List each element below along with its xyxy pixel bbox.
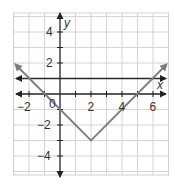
y-tick-label-neg4: −4 [37, 149, 51, 163]
x-tick-label-4: 4 [119, 100, 126, 114]
x-tick-label-6: 6 [150, 100, 157, 114]
origin-label: 0 [49, 97, 56, 111]
y-axis-label: y [63, 16, 71, 30]
x-tick-label-neg2: −2 [17, 100, 31, 114]
x-axis-label: x [156, 78, 164, 92]
coordinate-plane: x y −2 0 2 4 6 4 2 −2 −4 [0, 0, 175, 184]
y-tick-label-neg2: −2 [37, 118, 51, 132]
x-tick-label-2: 2 [88, 100, 95, 114]
y-tick-label-2: 2 [46, 56, 53, 70]
y-tick-label-4: 4 [46, 25, 53, 39]
